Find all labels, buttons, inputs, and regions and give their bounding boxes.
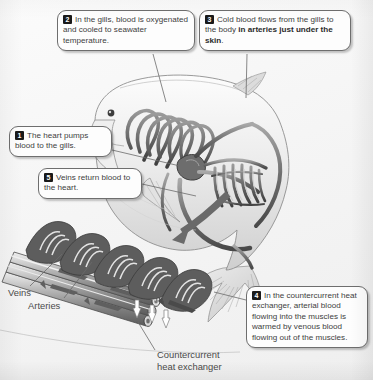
callout-3-number: 3	[205, 15, 214, 24]
callout-5-number: 5	[44, 173, 53, 182]
callout-1-number: 1	[15, 131, 24, 140]
label-veins: Veins	[8, 287, 31, 299]
callout-3-text: Cold blood flows from the gills to the b…	[205, 15, 334, 45]
label-countercurrent-heat-exchanger: Countercurrent heat exchanger	[157, 349, 222, 372]
callout-1: 1The heart pumps blood to the gills.	[9, 126, 112, 157]
callout-4-text: In the countercurrent heat exchanger, ar…	[252, 291, 357, 342]
callout-5: 5Veins return blood to the heart.	[38, 168, 142, 199]
fish-eye-highlight	[109, 111, 111, 113]
callout-2: 2In the gills, blood is oxygenated and c…	[57, 10, 195, 51]
callout-3: 3Cold blood flows from the gills to the …	[199, 10, 351, 51]
label-arteries: Arteries	[28, 300, 60, 312]
figure-canvas: 1The heart pumps blood to the gills. 2In…	[0, 0, 373, 380]
fish-eye	[108, 110, 115, 117]
callout-4-number: 4	[252, 291, 261, 300]
callout-2-number: 2	[63, 15, 72, 24]
callout-2-text: In the gills, blood is oxygenated and co…	[63, 15, 188, 45]
callout-5-text: Veins return blood to the heart.	[44, 173, 130, 192]
callout-4: 4In the countercurrent heat exchanger, a…	[246, 286, 368, 348]
heart	[177, 155, 205, 181]
callout-1-text: The heart pumps blood to the gills.	[15, 131, 88, 150]
